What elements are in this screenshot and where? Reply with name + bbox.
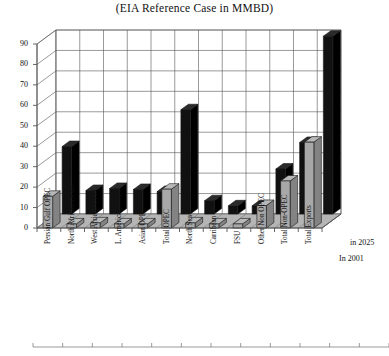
bar-front-face [228, 206, 238, 214]
chart-canvas [0, 0, 389, 356]
x-axis-category-label: Asian OPEC [139, 207, 147, 244]
y-axis-tick-label: 0 [10, 223, 28, 232]
x-axis-category-label: Total Exports [305, 205, 313, 244]
x-axis-category-label: Total OPEC [163, 209, 171, 244]
depth-label-2001: In 2001 [339, 254, 364, 263]
bar-front-face [323, 36, 333, 214]
bar-side-face [290, 175, 298, 228]
x-axis-category-label: West African OPEC [91, 186, 99, 244]
y-axis-tick-label: 30 [10, 162, 28, 171]
bar-side-face [314, 137, 322, 228]
bar-side-face [333, 31, 341, 214]
y-axis-tick-label: 40 [10, 141, 28, 150]
bar-side-face [53, 191, 61, 228]
y-axis-tick-label: 70 [10, 80, 28, 89]
x-axis-category-label: North Sea [186, 215, 194, 244]
chart-plot-area: 0102030405060708090 Persian Gulf OPECNor… [0, 0, 389, 356]
x-axis-category-label: Persian Gulf OPEC [44, 188, 52, 244]
x-axis-category-label: North African OPEC [68, 184, 76, 244]
y-axis-tick-label: 90 [10, 39, 28, 48]
bar-side-face [171, 184, 179, 228]
x-axis-category-label: Other Non OPEC [258, 193, 266, 244]
bar-front-face [205, 201, 215, 214]
bar [181, 104, 198, 214]
bar-front-face [181, 110, 191, 214]
x-axis-category-label: FSU [234, 231, 242, 244]
bar-front-face [233, 224, 243, 228]
x-axis-category-label: L. American OPEC [115, 188, 123, 244]
bar-side-face [190, 104, 198, 214]
y-axis-tick-label: 80 [10, 59, 28, 68]
y-axis-tick-label: 10 [10, 203, 28, 212]
bar [323, 31, 340, 214]
chart-root: (EIA Reference Case in MMBD) 01020304050… [0, 0, 389, 356]
depth-label-2025: in 2025 [350, 238, 374, 247]
x-axis-category-label: Total Non-OPEC [281, 194, 289, 244]
y-axis-tick-label: 60 [10, 100, 28, 109]
y-axis-tick-label: 50 [10, 121, 28, 130]
y-axis-tick-label: 20 [10, 182, 28, 191]
x-axis-category-label: Carribean [210, 216, 218, 244]
